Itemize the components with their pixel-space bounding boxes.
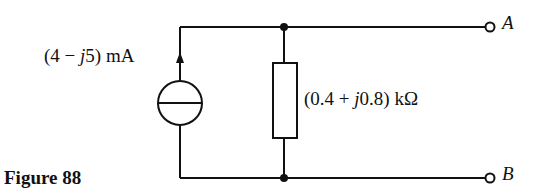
terminal-a-label: A	[502, 12, 514, 34]
figure-caption: Figure 88	[4, 167, 81, 189]
terminal-b-icon	[486, 174, 495, 183]
current-source-icon	[158, 81, 202, 125]
impedance-label: (0.4 + j0.8) kΩ	[304, 88, 418, 110]
terminal-b-label: B	[502, 163, 514, 185]
current-arrow-icon	[176, 52, 184, 63]
impedance-icon	[273, 63, 297, 138]
current-source-label-prefix: (4 −	[44, 45, 80, 66]
current-source-label: (4 − j5) mA	[44, 45, 134, 67]
circuit-schematic	[0, 0, 545, 191]
impedance-label-suffix: 0.8) kΩ	[360, 88, 418, 109]
circuit-diagram: (4 − j5) mA (0.4 + j0.8) kΩ A B Figure 8…	[0, 0, 545, 191]
impedance-label-prefix: (0.4 +	[304, 88, 354, 109]
terminal-a-icon	[486, 23, 495, 32]
current-source-label-suffix: 5) mA	[85, 45, 134, 66]
